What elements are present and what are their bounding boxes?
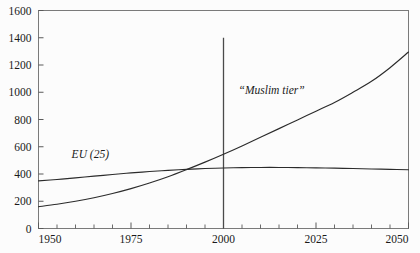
y-tick-label-400: 400 <box>14 168 32 180</box>
y-tick-label-1600: 1600 <box>9 5 32 17</box>
y-tick-label-200: 200 <box>14 195 32 207</box>
x-tick-label-1975: 1975 <box>120 233 143 245</box>
x-tick-label-2025: 2025 <box>305 233 328 245</box>
x-tick-label-1950: 1950 <box>39 233 62 245</box>
y-tick-label-1200: 1200 <box>9 59 32 71</box>
line-chart: 02004006008001000120014001600 1950197520… <box>0 0 420 253</box>
y-tick-label-800: 800 <box>14 114 32 126</box>
series-label-muslim-tier: “Muslim tier” <box>239 84 305 96</box>
chart-figure: 02004006008001000120014001600 1950197520… <box>0 0 420 253</box>
x-tick-label-2000: 2000 <box>212 233 235 245</box>
y-tick-label-1000: 1000 <box>9 86 32 98</box>
chart-background <box>0 0 420 253</box>
y-tick-label-1400: 1400 <box>9 32 32 44</box>
x-tick-label-2050: 2050 <box>386 233 409 245</box>
series-label-eu-25: EU (25) <box>71 148 110 161</box>
y-tick-label-0: 0 <box>26 223 32 235</box>
y-tick-label-600: 600 <box>14 141 32 153</box>
